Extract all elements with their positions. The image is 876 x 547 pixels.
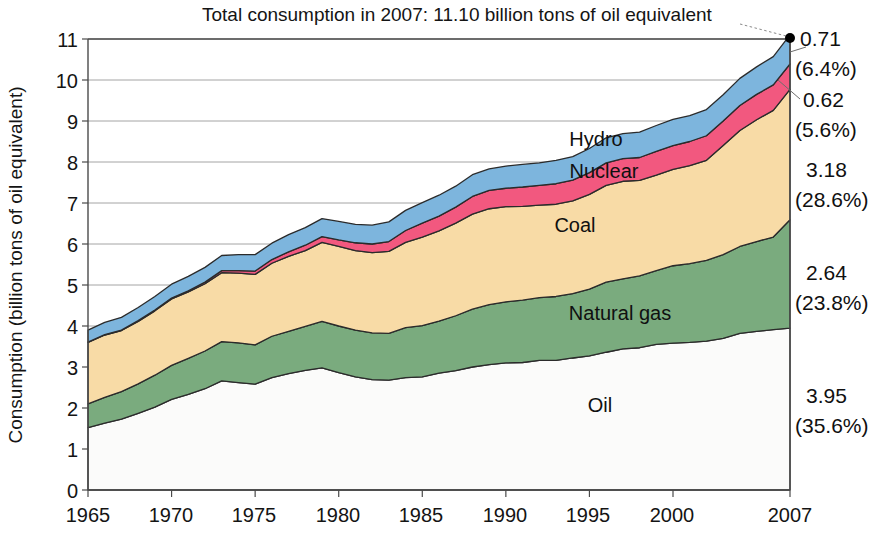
annotation-coal-value: 3.18 [806,158,847,181]
y-tick-label-5: 5 [67,275,78,297]
y-tick-label-4: 4 [67,316,78,338]
x-tick-label-1965: 1965 [66,504,111,526]
y-tick-label-11: 11 [57,29,78,51]
annotation-coal-percent: (28.6%) [795,188,869,211]
x-tick-label-1970: 1970 [149,504,194,526]
chart-title: Total consumption in 2007: 11.10 billion… [202,4,713,25]
series-label-nuclear: Nuclear [570,160,639,182]
x-tick-label-2007: 2007 [768,504,813,526]
annotation-hydro-value: 0.71 [800,27,841,50]
stacked-area-chart: 11 10 9 8 7 6 5 4 3 2 1 0 1965 1970 1975… [0,0,876,547]
y-tick-label-9: 9 [67,111,78,133]
x-tick-label-1985: 1985 [399,504,444,526]
title-leader-line [740,24,786,36]
y-tick-label-1: 1 [67,439,78,461]
series-label-oil: Oil [588,394,612,416]
y-axis-title: Consumption (billion tons of oil equival… [5,87,26,444]
y-tick-label-0: 0 [67,480,78,502]
y-tick-label-8: 8 [67,152,78,174]
x-tick-label-1995: 1995 [566,504,611,526]
series-label-hydro: Hydro [569,128,622,150]
annotation-oil-percent: (35.6%) [795,414,869,437]
x-tick-label-1990: 1990 [483,504,528,526]
y-tick-label-6: 6 [67,234,78,256]
annotation-natural-gas-value: 2.64 [806,261,847,284]
annotation-hydro-percent: (6.4%) [795,57,857,80]
y-tick-label-3: 3 [67,357,78,379]
annotation-nuclear-value: 0.62 [803,88,844,111]
y-tick-label-2: 2 [67,398,78,420]
y-tick-label-7: 7 [67,193,78,215]
y-tick-label-10: 10 [56,70,78,92]
series-label-natural-gas: Natural gas [569,302,671,324]
x-tick-label-2000: 2000 [650,504,695,526]
annotation-natural-gas-percent: (23.8%) [795,291,869,314]
total-2007-marker-dot [785,33,795,43]
x-tick-label-1975: 1975 [232,504,277,526]
x-tick-label-1980: 1980 [316,504,361,526]
annotation-nuclear-percent: (5.6%) [795,118,857,141]
chart-figure: 11 10 9 8 7 6 5 4 3 2 1 0 1965 1970 1975… [0,0,876,547]
series-areas [88,35,790,490]
annotation-oil-value: 3.95 [806,384,847,407]
series-label-coal: Coal [554,214,595,236]
